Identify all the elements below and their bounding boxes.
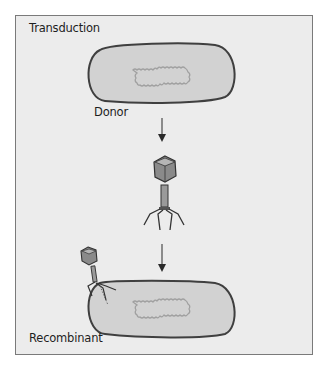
arrow-phage-to-recombinant — [158, 244, 166, 272]
bacteriophage — [144, 156, 184, 230]
donor-label: Donor — [94, 105, 128, 119]
donor-cell — [89, 43, 235, 102]
recombinant-cell — [89, 281, 235, 338]
diagram-title: Transduction — [29, 21, 100, 35]
transduction-diagram — [0, 0, 328, 370]
recombinant-label: Recombinant — [29, 331, 103, 345]
arrow-donor-to-phage — [158, 118, 166, 142]
